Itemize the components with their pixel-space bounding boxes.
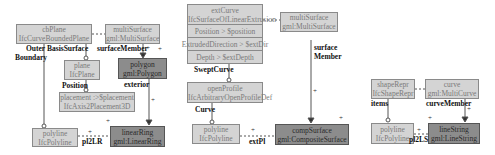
attribute-row: ExtrudedDirection > $extDir [188,38,262,51]
multiplicity-plus: + [339,114,343,122]
label-surface: surface [314,44,337,52]
box-type: IfcCurveBoundedPlane [17,34,91,43]
box-type: IfcPolyline [193,134,239,143]
box-type: IfcPolyline [372,134,413,143]
linearring-box: linearRing gml:LinearRing [110,126,165,147]
multiplicity-plus: + [151,96,155,104]
box-name: linearRing [111,128,164,137]
box-type: gml:LineString [429,134,479,143]
placement-box: placement :>$placement IfcAxis2Placement… [59,92,135,112]
box-name: extCurve [188,6,262,15]
box-type: IfcArbitraryOpenProfileDef [188,93,262,102]
multiplicity-plus: + [158,45,162,53]
box-name: openProfile [188,84,262,93]
label-position: Position [62,82,88,90]
multiplicity-plus: + [467,105,471,113]
polyline-box: polyline IfcPolyline [371,123,414,144]
label-pl2lr: pl2LR [82,138,102,146]
box-type: IfcPolyline [33,138,77,147]
box-name: plane [65,61,99,70]
curve-box: curve gml:MultiCurve [425,79,479,99]
box-type: IfcPlane [65,70,99,79]
box-type: gml:CompositeSurface [276,135,348,144]
label-exterior: exterior [124,81,149,89]
box-name: placement :>$placement [60,93,134,102]
box-type: gml:LinearRing [111,137,164,146]
label-extpl: extPl [249,138,265,146]
multiplicity-plus: + [417,126,421,134]
openprofile-box: openProfile IfcArbitraryOpenProfileDef [187,82,263,103]
multiplicity-plus: + [88,128,92,136]
label-surface-member: surfaceMember [97,45,148,53]
box-type: IfcShapeRepr [372,89,414,98]
box-name: multiSurface [281,13,337,22]
linestring-box: lineString gml:LineString [428,123,480,144]
box-name: curve [426,80,478,89]
polygon-box: polygon gml:Polygon [118,58,167,79]
multiplicity-plus: + [146,44,150,52]
box-type: gml:Polygon [119,69,166,78]
box-name: lineString [429,125,479,134]
box-name: polyline [33,129,77,138]
attribute-row: Depth > $extDepth [188,51,262,63]
box-type: IfcAxis2Placement3D [60,102,134,111]
extcurve-box: extCurve IfcSurfaceOfLinearExtrusion Pos… [187,4,263,64]
box-name: cbPlane [17,25,91,34]
box-name: compSurface [276,126,348,135]
box-name: polyline [372,125,413,134]
box-name: polygon [119,60,166,69]
box-type: IfcSurfaceOfLinearExtrusion [188,15,262,24]
polyline-box: polyline IfcPolyline [32,128,78,147]
multisurface-box: multiSurface gml:MultiSurface [105,24,160,44]
label-outer: Outer [26,45,45,53]
box-name: shapeRepr [372,80,414,89]
polyline-box: polyline IfcPolyline [192,124,240,144]
box-name: polyline [193,125,239,134]
plane-box: plane IfcPlane [64,60,100,80]
label-swept-curve: SweptCurve [194,66,234,74]
label-items: items [371,100,388,108]
shaperepr-box: shapeRepr IfcShapeRepr [371,79,415,99]
multiplicity-plus: + [106,117,110,125]
compsurface-box: compSurface gml:CompositeSurface [275,124,349,145]
label-curve-member: curveMember [426,100,471,108]
label-curve: Curve [195,106,215,114]
multiplicity-plus: + [251,126,255,134]
label-member: Member [314,53,341,61]
cbplane-box: cbPlane IfcCurveBoundedPlane [16,24,92,44]
label-basis-surface: BasisSurface [47,45,88,53]
label-pl2ls: pl2LS [409,136,428,144]
box-type: gml:MultiSurface [106,34,159,43]
box-type: gml:MultiCurve [426,89,478,98]
attribute-row: Position > $position [188,25,262,38]
multiplicity-plus: + [313,87,317,95]
box-name: multiSurface [106,25,159,34]
multiplicity-plus: + [428,114,432,122]
multisurface-box: multiSurface gml:MultiSurface [280,12,338,32]
box-type: gml:MultiSurface [281,22,337,31]
label-boundary: Boundary [15,54,47,62]
